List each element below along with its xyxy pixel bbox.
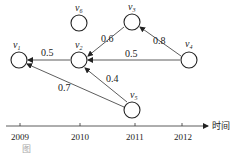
label-v5: v5 <box>130 89 137 101</box>
weight-v5-v2: 0.4 <box>106 73 119 84</box>
time-axis: 2009 2010 2011 2012 时间 <box>6 120 230 142</box>
figure-caption: 图 <box>22 144 31 153</box>
tick-2011: 2011 <box>126 132 144 142</box>
node-v5 <box>124 102 140 118</box>
weight-v5-v1: 0.7 <box>58 82 71 93</box>
node-v1 <box>11 52 27 68</box>
weight-v4-v2: 0.5 <box>125 48 138 59</box>
node-v4 <box>181 52 197 68</box>
tick-2012: 2012 <box>174 132 192 142</box>
nodes <box>11 14 197 118</box>
node-v3 <box>124 14 140 30</box>
label-v2: v2 <box>75 39 82 51</box>
label-v6: v6 <box>75 2 82 14</box>
weight-v2-v1: 0.5 <box>41 47 54 58</box>
edge-v5-v1 <box>27 64 124 107</box>
tick-2009: 2009 <box>11 132 30 142</box>
node-labels: v1 v2 v3 v4 v5 v6 <box>13 1 192 101</box>
tick-2010: 2010 <box>71 132 90 142</box>
node-v2 <box>71 52 87 68</box>
label-v4: v4 <box>185 38 192 50</box>
axis-label: 时间 <box>212 120 230 131</box>
label-v3: v3 <box>128 1 135 13</box>
temporal-graph-diagram: 0.5 0.6 0.5 0.8 0.4 0.7 v1 v2 v3 v4 v5 v… <box>0 0 236 153</box>
weight-v3-v2: 0.6 <box>101 33 114 44</box>
label-v1: v1 <box>13 39 20 51</box>
edge-weights: 0.5 0.6 0.5 0.8 0.4 0.7 <box>41 33 166 93</box>
node-v6 <box>71 15 87 31</box>
weight-v4-v3: 0.8 <box>153 35 166 46</box>
